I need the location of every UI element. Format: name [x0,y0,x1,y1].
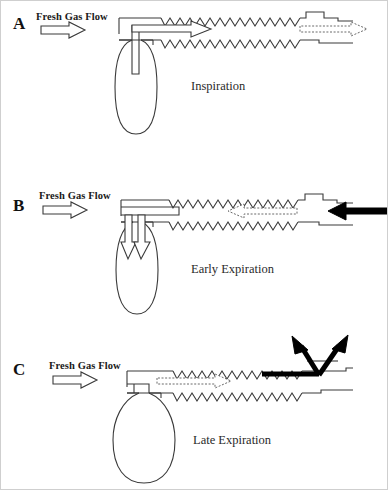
bag-riser-right-c [127,384,149,393]
patient-connector-top-a [300,12,353,21]
panel-a: A Fresh Gas Flow Inspiration [1,1,388,164]
patient-connector-top-c [302,368,353,371]
panel-c: C Fresh Gas Flow Late Expiration [1,328,388,490]
expired-gas-dashed-arrow-b [228,204,297,218]
reservoir-bag-b [116,222,158,314]
patient-connector-bottom-b [298,222,353,225]
panel-b-graphic [1,164,388,327]
patient-connector-top-b [298,194,353,203]
t-piece-bar-b [121,207,179,215]
panel-a-graphic [1,1,388,164]
lower-limb-corrugation-a [161,40,300,48]
internal-flow-dashed-arrow-c [157,374,231,388]
fresh-gas-arrow-b [43,202,87,218]
patient-connector-bottom-c [302,390,353,393]
panel-b: B Fresh Gas Flow Early Expiration [1,164,388,327]
internal-flow-arrow-a [132,21,211,37]
lower-limb-corrugation-b [169,222,298,230]
patient-dashed-arrow-a [300,22,367,36]
panel-c-graphic [1,328,388,490]
fresh-gas-arrow-a [41,22,85,38]
reservoir-bag-a [115,40,157,134]
reservoir-bag-c [113,393,175,483]
patient-solid-arrow-b [328,202,388,220]
lower-limb-corrugation-c [173,393,302,401]
fresh-gas-arrow-c [53,372,97,388]
figure-container: A Fresh Gas Flow Inspiration [0,0,388,490]
patient-connector-bottom-a [300,40,353,43]
upper-limb-corrugation-b [169,200,298,208]
